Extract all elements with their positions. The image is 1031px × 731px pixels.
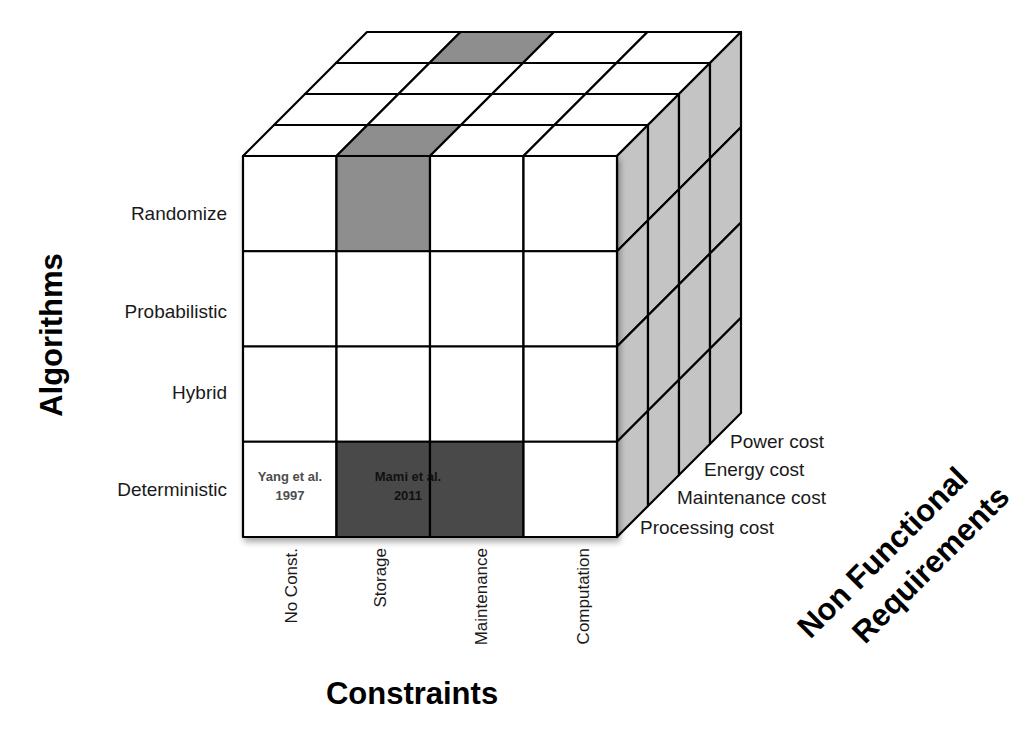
cell-hybrid-computation: [524, 347, 618, 442]
depth-label-energy-cost: Energy cost: [704, 459, 805, 480]
col-label-storage: Storage: [371, 548, 390, 608]
annotation-yang-line2: 1997: [276, 488, 305, 503]
cell-randomize-storage: [337, 156, 431, 251]
cell-deterministic-computation: [524, 442, 618, 537]
axis-title-constraints: Constraints: [326, 676, 498, 711]
cell-probabilistic-maintenance: [430, 251, 524, 346]
cell-probabilistic-no-const-: [243, 251, 337, 346]
col-label-computation: Computation: [574, 548, 593, 644]
annotation-mami-line1: Mami et al.: [375, 469, 441, 484]
cell-probabilistic-storage: [337, 251, 431, 346]
annotation-mami-line2: 2011: [394, 488, 422, 503]
depth-label-processing-cost: Processing cost: [640, 517, 775, 538]
row-label-randomize: Randomize: [131, 203, 227, 224]
cell-randomize-no-const-: [243, 156, 337, 251]
cube-canvas: Yang et al. 1997 Mami et al. 2011 Algori…: [0, 0, 1031, 731]
depth-label-power-cost: Power cost: [730, 431, 825, 452]
depth-label-maintenance-cost: Maintenance cost: [677, 487, 827, 508]
row-label-deterministic: Deterministic: [117, 479, 227, 500]
cell-hybrid-no-const-: [243, 347, 337, 442]
col-label-maintenance: Maintenance: [472, 548, 491, 645]
col-label-no-const: No Const.: [282, 548, 301, 624]
cell-hybrid-maintenance: [430, 347, 524, 442]
cell-probabilistic-computation: [524, 251, 618, 346]
row-label-hybrid: Hybrid: [172, 382, 227, 403]
cell-hybrid-storage: [337, 347, 431, 442]
axis-title-algorithms: Algorithms: [34, 253, 69, 417]
taxonomy-cube-diagram: Yang et al. 1997 Mami et al. 2011 Algori…: [0, 0, 1031, 731]
cell-randomize-computation: [524, 156, 618, 251]
cell-deterministic-maintenance: [430, 442, 524, 537]
annotation-yang-line1: Yang et al.: [258, 469, 322, 484]
row-label-probabilistic: Probabilistic: [125, 301, 227, 322]
cell-randomize-maintenance: [430, 156, 524, 251]
